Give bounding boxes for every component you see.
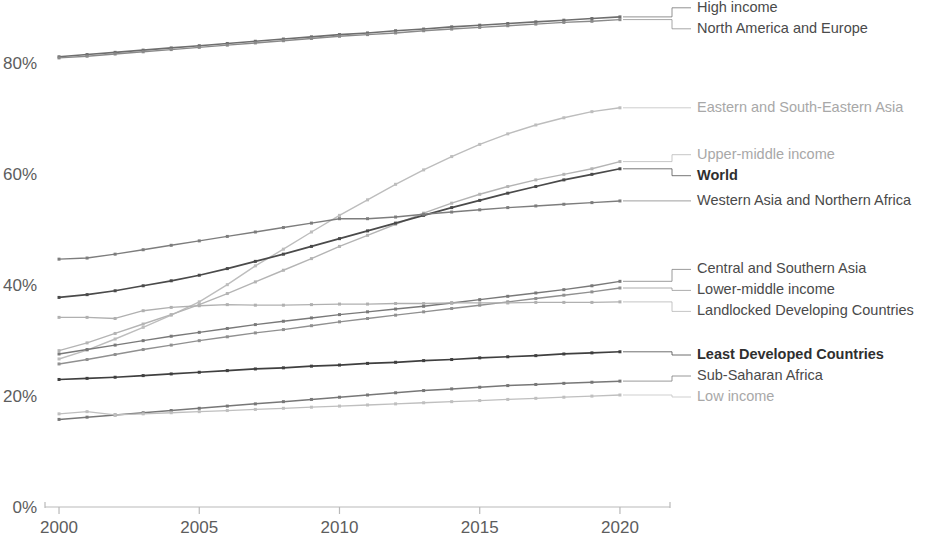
- series-marker: [254, 402, 257, 405]
- series-marker: [618, 350, 621, 353]
- series-marker: [310, 222, 313, 225]
- series-marker: [142, 348, 145, 351]
- legend-label-landlocked-developing-countries[interactable]: Landlocked Developing Countries: [697, 302, 914, 318]
- legend-label-upper-middle-income[interactable]: Upper-middle income: [697, 146, 835, 162]
- series-marker: [618, 106, 621, 109]
- series-marker: [310, 365, 313, 368]
- series-marker: [282, 269, 285, 272]
- legend-label-western-asia-and-northern-africa[interactable]: Western Asia and Northern Africa: [697, 192, 912, 208]
- series-marker: [422, 29, 425, 32]
- series-marker: [86, 316, 89, 319]
- series-marker: [282, 328, 285, 331]
- series-marker: [422, 359, 425, 362]
- series-marker: [562, 396, 565, 399]
- series-marker: [590, 173, 593, 176]
- series-marker: [310, 406, 313, 409]
- series-marker: [422, 168, 425, 171]
- series-marker: [562, 288, 565, 291]
- series-marker: [114, 253, 117, 256]
- series-marker: [450, 358, 453, 361]
- x-axis-tick-labels: 20002005201020152020: [40, 507, 639, 537]
- legend-label-world[interactable]: World: [697, 167, 738, 183]
- series-marker: [58, 412, 61, 415]
- series-marker: [114, 353, 117, 356]
- series-marker: [590, 201, 593, 204]
- series-marker: [142, 326, 145, 329]
- series-marker: [198, 410, 201, 413]
- y-axis-tick-labels: 0%20%40%60%80%: [3, 54, 37, 517]
- series-marker: [170, 306, 173, 309]
- series-marker: [394, 314, 397, 317]
- series-marker: [534, 354, 537, 357]
- series-marker: [338, 405, 341, 408]
- series-marker: [254, 264, 257, 267]
- series-marker: [114, 376, 117, 379]
- series-marker: [534, 23, 537, 26]
- series-marker: [226, 335, 229, 338]
- legend-label-eastern-and-south-eastern-asia[interactable]: Eastern and South-Eastern Asia: [697, 99, 904, 115]
- series-marker: [506, 355, 509, 358]
- series-marker: [618, 394, 621, 397]
- legend-label-lower-middle-income[interactable]: Lower-middle income: [697, 281, 835, 297]
- series-marker: [282, 253, 285, 256]
- series-marker: [366, 229, 369, 232]
- legend-label-low-income[interactable]: Low income: [697, 388, 774, 404]
- legend-label-north-america-and-europe[interactable]: North America and Europe: [697, 20, 868, 36]
- series-marker: [422, 302, 425, 305]
- series-marker: [310, 324, 313, 327]
- series-marker: [254, 41, 257, 44]
- series-marker: [58, 362, 61, 365]
- series-marker: [170, 313, 173, 316]
- series-marker: [226, 44, 229, 47]
- series-marker: [114, 338, 117, 341]
- series-marker: [394, 216, 397, 219]
- legend-leader-line-low-income: [623, 395, 691, 397]
- series-marker: [534, 397, 537, 400]
- series-marker: [226, 267, 229, 270]
- series-marker: [114, 289, 117, 292]
- series-marker: [338, 237, 341, 240]
- series-marker: [618, 18, 621, 21]
- series-marker: [170, 411, 173, 414]
- series-marker: [58, 316, 61, 319]
- series-marker: [422, 401, 425, 404]
- series-marker: [338, 364, 341, 367]
- series-marker: [450, 211, 453, 214]
- series-marker: [338, 214, 341, 217]
- series-marker: [590, 284, 593, 287]
- series-marker: [394, 31, 397, 34]
- series-marker: [86, 257, 89, 260]
- series-marker: [226, 405, 229, 408]
- series-marker: [254, 260, 257, 263]
- series-marker: [254, 280, 257, 283]
- series-marker: [226, 283, 229, 286]
- legend-label-high-income[interactable]: High income: [697, 0, 778, 15]
- series-marker: [170, 279, 173, 282]
- series-marker: [366, 394, 369, 397]
- legend-label-central-and-southern-asia[interactable]: Central and Southern Asia: [697, 260, 867, 276]
- series-marker: [226, 369, 229, 372]
- legend-label-least-developed-countries[interactable]: Least Developed Countries: [697, 346, 884, 362]
- series-marker: [618, 300, 621, 303]
- series-marker: [310, 398, 313, 401]
- legend-label-sub-saharan-africa[interactable]: Sub-Saharan Africa: [697, 367, 824, 383]
- series-marker: [226, 235, 229, 238]
- legend-leader-line-north-america-and-europe: [623, 20, 691, 29]
- series-marker: [282, 248, 285, 251]
- series-marker: [506, 384, 509, 387]
- series-marker: [254, 408, 257, 411]
- series-marker: [310, 245, 313, 248]
- legend-leader-line-high-income: [623, 8, 691, 17]
- series-marker: [506, 301, 509, 304]
- series-marker: [170, 335, 173, 338]
- series-marker: [450, 400, 453, 403]
- series-marker: [58, 258, 61, 261]
- series-marker: [198, 339, 201, 342]
- series-marker: [170, 344, 173, 347]
- series-marker: [142, 339, 145, 342]
- series-marker: [506, 24, 509, 27]
- series-marker: [562, 116, 565, 119]
- series-marker: [366, 362, 369, 365]
- series-marker: [310, 231, 313, 234]
- x-tick-2000: 2000: [40, 518, 78, 537]
